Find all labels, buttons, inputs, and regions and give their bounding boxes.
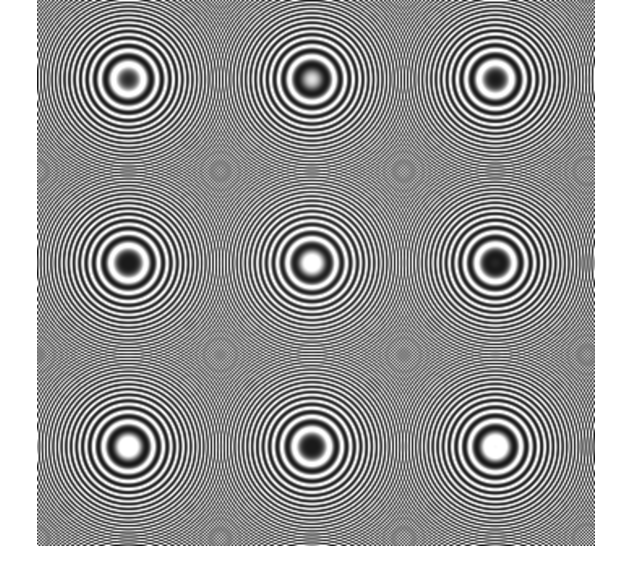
zone-plate-canvas: [0, 0, 622, 582]
figure-stage: [0, 0, 622, 582]
